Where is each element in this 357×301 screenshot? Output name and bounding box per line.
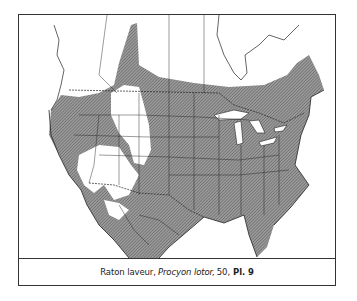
range-map — [19, 15, 334, 258]
caption-page: 50, — [217, 267, 230, 277]
map-figure-frame: Raton laveur, Procyon lotor, 50, Pl. 9 — [18, 14, 336, 286]
caption-plate: Pl. 9 — [233, 267, 254, 277]
north-america-map — [19, 15, 334, 258]
caption-scientific-name: Procyon lotor, — [158, 267, 215, 277]
hudson-bay — [217, 15, 299, 80]
figure-caption: Raton laveur, Procyon lotor, 50, Pl. 9 — [19, 260, 335, 284]
caption-common-name: Raton laveur, — [100, 267, 156, 277]
caption-divider — [19, 258, 335, 259]
